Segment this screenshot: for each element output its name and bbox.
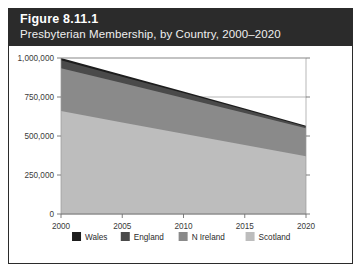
legend-swatch-wales	[72, 232, 81, 241]
figure-number-label: Figure 8.11.1	[20, 12, 352, 27]
legend-swatch-scotland	[246, 232, 255, 241]
legend-swatch-n-ireland	[179, 232, 188, 241]
legend-swatch-england	[121, 232, 130, 241]
legend-label-n-ireland: N Ireland	[192, 233, 226, 242]
y-axis-tick-label: 250,000	[24, 171, 54, 180]
area-series-group	[61, 58, 306, 214]
chart-legend: WalesEnglandN IrelandScotland	[72, 232, 291, 242]
figure-subtitle: Presbyterian Membership, by Country, 200…	[20, 27, 352, 42]
chart-region: 0250,000500,000750,0001,000,000 20002005…	[9, 46, 352, 263]
y-axis-tick-label: 500,000	[24, 132, 54, 141]
y-axis-tick-label: 1,000,000	[18, 54, 55, 63]
figure-container: Figure 8.11.1 Presbyterian Membership, b…	[8, 8, 353, 264]
x-axis-tick-label: 2015	[236, 222, 255, 231]
legend-label-wales: Wales	[85, 233, 107, 242]
stacked-area-chart: 0250,000500,000750,0001,000,000 20002005…	[9, 46, 351, 263]
x-axis-tick-label: 2005	[113, 222, 132, 231]
legend-label-scotland: Scotland	[259, 233, 291, 242]
x-axis-tick-label: 2000	[52, 222, 71, 231]
y-axis-tick-label: 0	[49, 210, 54, 219]
y-axis-tick-label: 750,000	[24, 93, 54, 102]
figure-header: Figure 8.11.1 Presbyterian Membership, b…	[9, 9, 352, 46]
legend-label-england: England	[134, 233, 164, 242]
x-axis: 20002005201020152020	[52, 214, 316, 231]
x-axis-tick-label: 2020	[297, 222, 316, 231]
x-axis-tick-label: 2010	[174, 222, 193, 231]
